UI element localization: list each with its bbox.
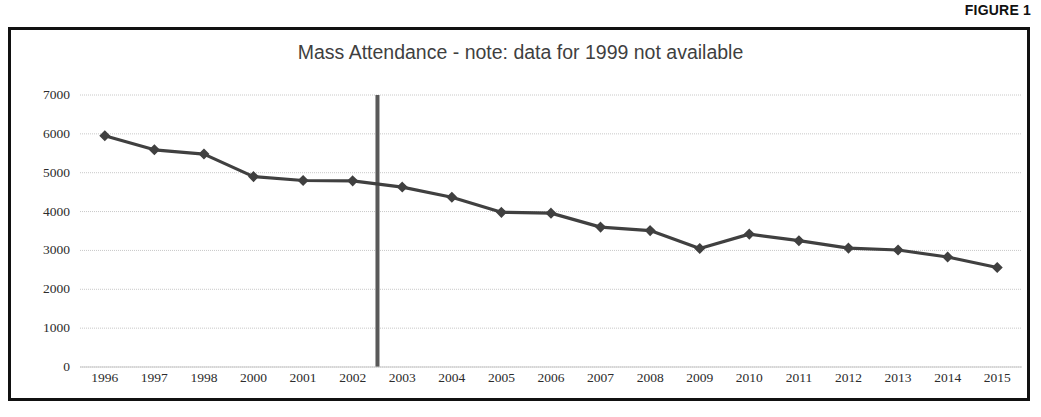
y-axis-tick-label: 0: [10, 359, 70, 375]
data-point-marker: [794, 236, 803, 245]
data-point-marker: [596, 223, 605, 232]
y-axis-tick-label: 2000: [10, 281, 70, 297]
x-axis-tick-label: 2008: [637, 370, 664, 386]
data-point-marker: [943, 253, 952, 262]
data-point-marker: [844, 244, 853, 253]
data-point-marker: [398, 183, 407, 192]
x-axis-tick-label: 2004: [438, 370, 465, 386]
y-axis-tick-label: 4000: [10, 204, 70, 220]
data-point-marker: [348, 176, 357, 185]
y-axis-tick-label: 5000: [10, 165, 70, 181]
x-axis-tick-label: 2000: [240, 370, 267, 386]
data-point-marker: [993, 263, 1002, 272]
x-axis-tick-label: 2002: [339, 370, 366, 386]
x-axis-tick-label: 2007: [587, 370, 614, 386]
chart-plot-area: 01000200030004000500060007000 1996199719…: [0, 0, 1041, 417]
x-axis-tick-label: 2010: [736, 370, 763, 386]
y-axis-tick-label: 7000: [10, 87, 70, 103]
x-axis-tick-label: 2014: [934, 370, 961, 386]
x-axis-tick-label: 2005: [488, 370, 515, 386]
data-point-marker: [547, 209, 556, 218]
x-axis-tick-label: 2011: [786, 370, 813, 386]
x-axis-tick-label: 2015: [984, 370, 1011, 386]
data-point-marker: [447, 193, 456, 202]
y-axis-tick-label: 6000: [10, 126, 70, 142]
x-axis-tick-label: 1996: [91, 370, 118, 386]
data-point-marker: [299, 176, 308, 185]
x-axis-tick-label: 2003: [389, 370, 416, 386]
data-point-marker: [150, 145, 159, 154]
data-point-marker: [646, 226, 655, 235]
x-axis-tick-label: 1997: [141, 370, 168, 386]
data-point-marker: [497, 208, 506, 217]
series-line: [105, 136, 997, 268]
x-axis-tick-label: 2013: [885, 370, 912, 386]
data-point-marker: [100, 131, 109, 140]
y-axis-tick-label: 3000: [10, 242, 70, 258]
data-point-marker: [695, 244, 704, 253]
x-axis-tick-label: 1998: [190, 370, 217, 386]
x-axis-tick-label: 2009: [686, 370, 713, 386]
y-axis-tick-label: 1000: [10, 320, 70, 336]
line-chart-svg: [0, 0, 1041, 417]
x-axis-tick-label: 2006: [538, 370, 565, 386]
x-axis-tick-label: 2012: [835, 370, 862, 386]
data-point-marker: [894, 246, 903, 255]
x-axis-tick-label: 2001: [290, 370, 317, 386]
data-point-marker: [745, 230, 754, 239]
